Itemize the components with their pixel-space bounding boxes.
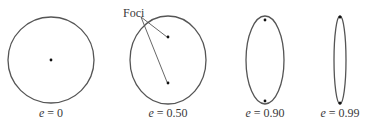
label-val: 0.99 xyxy=(339,106,360,120)
focus-point xyxy=(339,16,342,19)
focus-point xyxy=(50,59,53,62)
focus-point xyxy=(167,82,170,85)
label-e099: e = 0.99 xyxy=(320,106,359,121)
focus-point xyxy=(339,102,342,105)
label-eq: = xyxy=(154,106,167,120)
label-val: 0.90 xyxy=(264,106,285,120)
focus-point xyxy=(167,36,170,39)
label-e090: e = 0.90 xyxy=(245,106,284,121)
ellipse-e050 xyxy=(130,16,206,104)
label-val: 0 xyxy=(57,106,63,120)
ellipse-e090 xyxy=(246,16,284,104)
label-val: 0.50 xyxy=(167,106,188,120)
label-e050: e = 0.50 xyxy=(148,106,187,121)
label-eq: = xyxy=(326,106,339,120)
focus-point xyxy=(264,100,267,103)
ellipse-e099 xyxy=(334,16,346,104)
label-eq: = xyxy=(251,106,264,120)
label-e0: e = 0 xyxy=(39,106,63,121)
focus-point xyxy=(264,19,267,22)
foci-label: Foci xyxy=(123,6,144,21)
label-eq: = xyxy=(44,106,57,120)
